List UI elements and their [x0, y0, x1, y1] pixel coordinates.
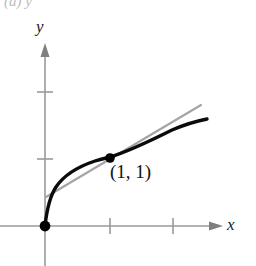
y-axis-label: y	[36, 18, 44, 35]
tangency-point-label: (1, 1)	[110, 162, 151, 181]
y-axis-arrowhead	[41, 43, 50, 57]
origin-point-marker	[40, 221, 51, 232]
plot-canvas	[0, 0, 256, 266]
x-axis-arrowhead	[209, 222, 223, 231]
x-axis-label: x	[227, 216, 235, 233]
figure-container: (a) y y x (1, 1)	[0, 0, 256, 266]
